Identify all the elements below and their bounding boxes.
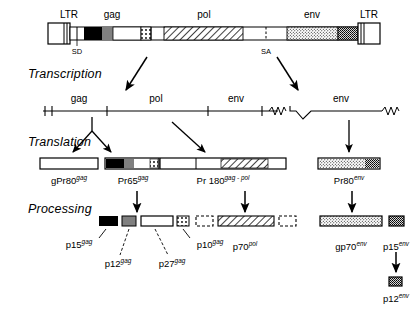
genome-bar-group: LTR gag pol env LTR: [48, 9, 380, 56]
genome-gene-label-gag: gag: [104, 9, 121, 20]
svg-text:gp70env: gp70env: [335, 240, 367, 252]
processed-pol-left-ghost: [196, 216, 213, 226]
svg-text:gPr80gag: gPr80gag: [51, 174, 87, 186]
translation-arrow-pr180: [172, 122, 205, 152]
processed-label-p27gag: p27: [159, 258, 175, 269]
processed-sup-p15env: env: [399, 240, 410, 247]
genome-segment-ltr-right: [358, 23, 380, 44]
svg-text:p12gag: p12gag: [105, 257, 132, 269]
processed-p10gag: [177, 216, 189, 226]
splice-acceptor-label: SA: [261, 47, 271, 56]
svg-text:Pr80env: Pr80env: [334, 174, 365, 186]
transcript-gene-label-pol: pol: [149, 93, 162, 104]
processed-pol-right-ghost: [279, 216, 296, 226]
transcript-genomic-rna: gag pol env: [43, 93, 286, 116]
processed-label-p15gag: p15: [66, 239, 82, 250]
processed-sup-p12env: env: [399, 292, 410, 299]
translation-arrows: [73, 117, 349, 152]
processed-sup-p10gag: gag: [213, 238, 224, 246]
genome-segment-gag-p27: [113, 27, 141, 40]
genome-segment-gag-p15: [84, 27, 102, 40]
genome-segment-gag-p12: [102, 27, 113, 40]
transcription-arrow-genomic: [126, 57, 147, 90]
svg-text:p15gag: p15gag: [66, 238, 93, 250]
processed-p15gag: [99, 216, 118, 226]
figure-canvas: LTR gag pol env LTR: [0, 0, 419, 316]
svg-text:p27gag: p27gag: [159, 257, 186, 269]
transcripts-group: gag pol env env: [43, 93, 399, 119]
leader-p27gag: [155, 229, 168, 255]
processed-sup-p12gag: gag: [121, 257, 132, 265]
product-label-pr65gag: Pr65: [118, 175, 138, 186]
product-sup-pr180gagpol: gag - pol: [225, 174, 250, 182]
svg-text:Pr 180gag - pol: Pr 180gag - pol: [197, 174, 250, 186]
polyA-tail-spliced: [382, 107, 399, 115]
processed-label-p12env: p12: [383, 293, 399, 304]
ltr-right-label: LTR: [360, 9, 378, 20]
transcription-arrows: [126, 57, 298, 90]
splice-donor-label: SD: [72, 47, 83, 56]
transcript-spliced-env-mrna: env: [290, 93, 399, 119]
processed-p27gag: [141, 216, 173, 226]
processed-label-gp70env: gp70: [335, 241, 356, 252]
product-gpr80gag: gPr80gag: [40, 158, 98, 186]
ltr-left-label: LTR: [60, 9, 78, 20]
processed-gp70env: [320, 216, 382, 226]
stage-label-transcription: Transcription: [28, 67, 102, 81]
splice-notch: [290, 106, 382, 119]
product-pr65gag: Pr65gag: [105, 158, 159, 186]
product-sup-pr65gag: gag: [138, 174, 149, 182]
processing-labels: p15gag p12gag p27gag p10gag p70pol gp70e…: [66, 238, 410, 304]
processed-sup-p70pol: pol: [248, 240, 258, 248]
stage-label-processing: Processing: [28, 202, 92, 216]
processed-label-p70pol: p70: [233, 241, 249, 252]
processed-label-p10gag: p10: [197, 239, 213, 250]
genome-segment-ltr-left: [48, 23, 70, 44]
processed-sup-p27gag: gag: [175, 257, 186, 265]
product-label-pr180gagpol: Pr 180: [197, 175, 225, 186]
svg-text:p70pol: p70pol: [233, 240, 258, 252]
transcription-arrow-spliced: [277, 57, 298, 90]
transcript-gene-label-env: env: [228, 93, 244, 104]
transcript-gene-label-env-spliced: env: [333, 93, 349, 104]
genome-body: [70, 27, 358, 40]
stage-label-translation: Translation: [28, 135, 91, 149]
processed-label-p12gag: p12: [105, 258, 121, 269]
translation-arrow-pr65: [92, 131, 111, 152]
processed-sup-gp70env: env: [356, 240, 367, 247]
svg-text:Pr65gag: Pr65gag: [118, 174, 149, 186]
genome-gene-label-pol: pol: [197, 9, 210, 20]
transcript-gene-label-gag: gag: [71, 93, 88, 104]
svg-text:p12env: p12env: [383, 292, 410, 304]
product-pr180gagpol: Pr 180gag - pol: [160, 158, 286, 186]
processed-sup-p15gag: gag: [82, 238, 93, 246]
leader-p15gag: [99, 229, 106, 238]
genome-segment-pol: [164, 27, 243, 40]
svg-text:p15env: p15env: [383, 240, 410, 252]
genome-segment-gag-p10: [141, 27, 151, 40]
processed-p70pol: [218, 216, 274, 226]
genome-gene-label-env: env: [304, 9, 320, 20]
genome-segment-env-p15: [338, 27, 358, 40]
svg-text:p10gag: p10gag: [197, 238, 224, 250]
product-sup-pr80env: env: [354, 174, 365, 181]
product-label-gpr80gag: gPr80: [51, 175, 76, 186]
product-label-pr80env: Pr80: [334, 175, 354, 186]
processing-products-group: [99, 216, 404, 286]
translation-products-group: gPr80gag Pr65gag Pr 180gag - pol: [40, 158, 380, 186]
processed-label-p15env: p15: [383, 241, 399, 252]
product-sup-gpr80gag: gag: [76, 174, 87, 182]
processed-p12env: [389, 277, 402, 286]
product-pr80env: Pr80env: [318, 158, 380, 186]
retroviral-expression-diagram: LTR gag pol env LTR: [0, 0, 419, 316]
genome-segment-env-gp70: [287, 27, 338, 40]
leader-p10gag: [183, 229, 190, 238]
processed-p15env: [389, 216, 404, 226]
leader-p12gag: [120, 229, 129, 255]
